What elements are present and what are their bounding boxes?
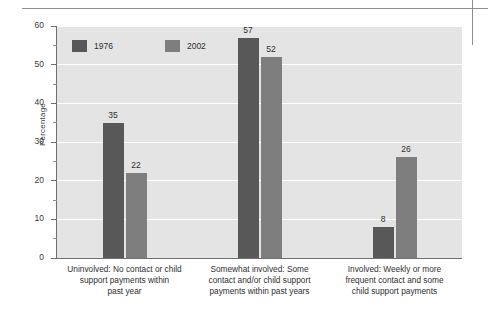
category-label-1-line-3: past year (53, 286, 196, 297)
y-tick-minor-5 (53, 238, 57, 239)
category-label-1-line-2: support payments within (53, 275, 196, 286)
category-label-1-line-1: Uninvolved: No contact or child (53, 264, 196, 275)
y-tick-minor-55 (53, 45, 57, 46)
bar-1976-group-3 (373, 227, 394, 258)
y-tick-major-0 (51, 258, 57, 259)
y-tick-major-50 (51, 64, 57, 65)
y-tick-minor-15 (53, 200, 57, 201)
y-tick-label-50: 50 (0, 60, 44, 69)
gridline-50 (57, 64, 462, 65)
category-label-3-line-3: child support payments (323, 286, 466, 297)
bar-2002-group-2 (261, 57, 282, 258)
category-label-3: Involved: Weekly or morefrequent contact… (323, 264, 466, 298)
y-tick-minor-25 (53, 161, 57, 162)
y-tick-minor-45 (53, 84, 57, 85)
category-label-2-line-1: Somewhat involved: Some (188, 264, 331, 275)
gridline-40 (57, 103, 462, 104)
category-label-2-line-2: contact and/or child support (188, 275, 331, 286)
category-label-3-line-1: Involved: Weekly or more (323, 264, 466, 275)
y-tick-label-10: 10 (0, 214, 44, 223)
y-tick-label-30: 30 (0, 137, 44, 146)
category-label-2: Somewhat involved: Somecontact and/or ch… (188, 264, 331, 298)
y-tick-major-40 (51, 103, 57, 104)
bar-value-2002-group-1: 22 (120, 161, 153, 170)
bar-1976-group-2 (238, 38, 259, 258)
bar-2002-group-3 (396, 157, 417, 258)
legend-label-2002: 2002 (187, 42, 206, 51)
y-tick-major-20 (51, 180, 57, 181)
y-tick-label-40: 40 (0, 98, 44, 107)
y-tick-major-30 (51, 142, 57, 143)
bar-2002-group-1 (126, 173, 147, 258)
category-label-1: Uninvolved: No contact or childsupport p… (53, 264, 196, 298)
y-tick-major-60 (51, 26, 57, 27)
legend-item-2002: 2002 (165, 40, 206, 52)
legend-item-1976: 1976 (72, 40, 113, 52)
bar-1976-group-1 (103, 123, 124, 258)
y-tick-label-20: 20 (0, 176, 44, 185)
category-label-2-line-3: payments within past years (188, 286, 331, 297)
x-axis-line (56, 258, 462, 259)
category-label-3-line-2: frequent contact and some (323, 275, 466, 286)
bar-value-1976-group-1: 35 (97, 111, 130, 120)
bar-value-2002-group-3: 26 (390, 145, 423, 154)
y-tick-minor-35 (53, 122, 57, 123)
bar-chart-figure: Percentage 0102030405060 35225752826 Uni… (0, 0, 488, 310)
y-axis-title: Percentage (38, 65, 47, 185)
chart-legend: 1976 2002 (72, 40, 206, 52)
bar-value-1976-group-2: 57 (232, 26, 265, 35)
y-tick-major-10 (51, 219, 57, 220)
y-tick-label-0: 0 (0, 253, 44, 262)
y-tick-label-60: 60 (0, 21, 44, 30)
legend-label-1976: 1976 (94, 42, 113, 51)
legend-swatch-icon-2002 (165, 40, 180, 52)
bar-value-2002-group-2: 52 (255, 45, 288, 54)
legend-swatch-icon-1976 (72, 40, 87, 52)
